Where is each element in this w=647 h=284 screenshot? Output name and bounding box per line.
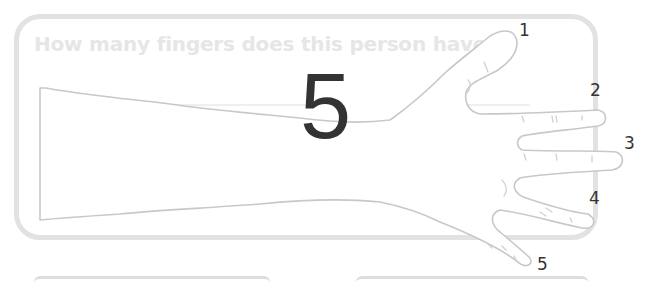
finger-label-3: 3 (624, 135, 635, 152)
answer-number: 5 (300, 60, 351, 152)
finger-label-5: 5 (537, 256, 548, 273)
finger-label-2: 2 (590, 82, 601, 99)
finger-label-4: 4 (589, 190, 600, 207)
bottom-bar-right (356, 276, 588, 284)
bottom-bar-left (34, 276, 270, 284)
finger-label-1: 1 (519, 22, 530, 39)
